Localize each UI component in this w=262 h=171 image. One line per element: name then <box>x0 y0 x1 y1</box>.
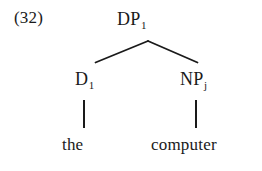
tree-node-root-subscript: 1 <box>141 19 147 31</box>
tree-node-right-child: NPj <box>180 70 206 88</box>
tree-node-left-child: D1 <box>75 70 94 88</box>
tree-node-left-child-subscript: 1 <box>89 79 95 91</box>
tree-node-right-child-label: NP <box>180 69 203 89</box>
branch-line-left <box>96 41 149 63</box>
tree-terminal-right: computer <box>151 136 217 153</box>
tree-terminal-left: the <box>62 136 83 153</box>
syntax-tree-figure: (32) DP1 D1 NPj the computer <box>0 0 262 171</box>
branch-line-right <box>148 41 198 63</box>
tree-node-right-child-subscript: j <box>204 79 207 91</box>
example-number: (32) <box>14 9 43 26</box>
tree-node-root: DP1 <box>117 10 146 28</box>
tree-node-left-child-label: D <box>75 69 88 89</box>
tree-node-root-label: DP <box>117 9 140 29</box>
